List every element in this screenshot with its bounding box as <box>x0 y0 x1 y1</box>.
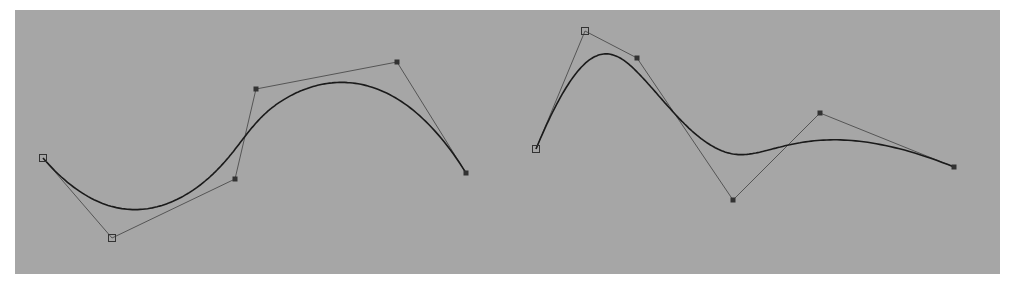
control-point-marker-icon[interactable] <box>635 56 639 60</box>
right-bspline <box>533 28 957 203</box>
control-point-marker-icon[interactable] <box>952 165 956 169</box>
control-point-marker-icon[interactable] <box>395 60 399 64</box>
control-point-marker-icon[interactable] <box>233 177 237 181</box>
control-point-marker-icon[interactable] <box>254 87 258 91</box>
control-point-marker-icon[interactable] <box>818 111 822 115</box>
control-polygon <box>536 31 954 200</box>
control-point-marker-icon[interactable] <box>731 198 735 202</box>
control-point-marker-icon[interactable] <box>464 171 468 175</box>
curves-svg <box>0 0 1010 286</box>
left-bspline <box>40 60 469 242</box>
spline-curve <box>43 82 466 209</box>
spline-curve <box>536 54 954 167</box>
